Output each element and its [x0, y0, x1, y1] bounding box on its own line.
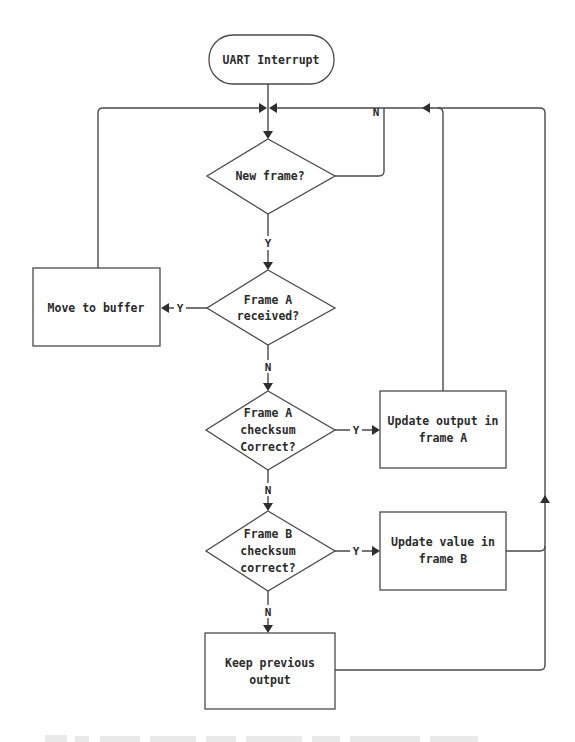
node-label-line-1: Frame A	[244, 406, 293, 420]
edge-label-checksum-b-no: N	[265, 606, 272, 619]
node-label-line-2: checksum	[240, 544, 295, 558]
node-new-frame-decision: New frame?	[207, 139, 335, 214]
node-label-line-1: Keep previous	[225, 656, 315, 670]
arrow-left-icon	[269, 103, 277, 113]
arrow-down-icon	[263, 625, 273, 633]
node-frame-a-checksum-decision: Frame A checksum Correct?	[206, 391, 335, 470]
node-frame-a-received-decision: Frame A received?	[207, 270, 335, 345]
edge-label-frame-a-received-yes: Y	[177, 302, 184, 315]
arrow-right-icon	[372, 546, 380, 556]
node-label-line-2: checksum	[240, 423, 295, 437]
arrow-up-icon	[540, 495, 550, 503]
node-label-line-1: Frame B	[244, 527, 293, 541]
arrow-down-icon	[263, 131, 273, 139]
node-label: UART Interrupt	[223, 53, 320, 67]
node-keep-previous-output: Keep previous output	[205, 633, 335, 709]
node-frame-b-checksum-decision: Frame B checksum correct?	[206, 511, 335, 591]
node-label-line-3: Correct?	[240, 440, 295, 454]
edge-label-new-frame-yes: Y	[265, 237, 272, 250]
node-label-line-2: frame A	[419, 431, 468, 445]
node-label-line-1: Update value in	[391, 535, 495, 549]
node-update-output-frame-a: Update output in frame A	[380, 391, 506, 468]
edge-update-a-return	[438, 108, 443, 391]
node-label-line-1: Frame A	[244, 293, 293, 307]
node-uart-interrupt: UART Interrupt	[209, 35, 334, 84]
edge-update-b-return	[506, 546, 545, 551]
node-move-to-buffer: Move to buffer	[33, 268, 160, 346]
node-update-value-frame-b: Update value in frame B	[380, 512, 506, 590]
caption-truncated	[45, 735, 478, 742]
edge-label-checksum-a-no: N	[265, 484, 272, 497]
node-label-line-2: received?	[237, 309, 299, 323]
flowchart-canvas: N Y Y N Y N Y N UART Interrupt New frame…	[0, 0, 575, 742]
node-label: Move to buffer	[48, 301, 145, 315]
edge-label-checksum-a-yes: Y	[353, 424, 360, 437]
arrow-down-icon	[263, 262, 273, 270]
node-label-line-2: output	[249, 673, 291, 687]
edge-label-checksum-b-yes: Y	[353, 545, 360, 558]
node-label: New frame?	[235, 169, 304, 183]
arrow-right-icon	[372, 425, 380, 435]
node-label-line-1: Update output in	[388, 414, 499, 428]
arrow-left-icon	[422, 103, 430, 113]
arrow-right-icon	[259, 103, 267, 113]
arrow-down-icon	[263, 503, 273, 511]
arrow-left-icon	[161, 303, 169, 313]
node-label-line-2: frame B	[419, 552, 468, 566]
arrow-down-icon	[263, 383, 273, 391]
node-label-line-3: correct?	[240, 561, 295, 575]
edge-label-new-frame-no: N	[373, 106, 380, 119]
edge-label-frame-a-received-no: N	[265, 361, 272, 374]
